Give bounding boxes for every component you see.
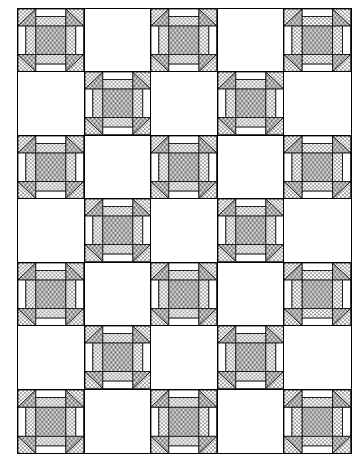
shoofly-block-icon bbox=[284, 263, 351, 325]
plain-square bbox=[218, 136, 285, 199]
plain-square bbox=[284, 326, 351, 389]
shoofly-block-icon bbox=[85, 72, 151, 134]
quilt-block bbox=[18, 9, 85, 72]
quilt-block bbox=[151, 263, 218, 326]
quilt-block bbox=[218, 72, 285, 135]
plain-square bbox=[85, 136, 152, 199]
plain-square bbox=[85, 9, 152, 72]
shoofly-block-icon bbox=[151, 390, 217, 453]
quilt-block bbox=[85, 199, 152, 262]
plain-square bbox=[18, 199, 85, 262]
shoofly-block-icon bbox=[218, 72, 284, 134]
quilt-layout bbox=[17, 8, 352, 454]
quilt-block bbox=[284, 263, 351, 326]
plain-square bbox=[18, 326, 85, 389]
shoofly-block-icon bbox=[151, 263, 217, 325]
quilt-block bbox=[284, 136, 351, 199]
shoofly-block-icon bbox=[18, 136, 84, 198]
quilt-block bbox=[284, 9, 351, 72]
quilt-block bbox=[151, 9, 218, 72]
shoofly-block-icon bbox=[284, 390, 351, 453]
quilt-block bbox=[18, 263, 85, 326]
plain-square bbox=[85, 263, 152, 326]
shoofly-block-icon bbox=[151, 9, 217, 71]
plain-square bbox=[85, 390, 152, 453]
shoofly-block-icon bbox=[18, 263, 84, 325]
plain-square bbox=[218, 263, 285, 326]
plain-square bbox=[151, 199, 218, 262]
shoofly-block-icon bbox=[284, 136, 351, 198]
quilt-block bbox=[218, 326, 285, 389]
quilt-block bbox=[284, 390, 351, 453]
shoofly-block-icon bbox=[284, 9, 351, 71]
quilt-block bbox=[85, 72, 152, 135]
quilt-block bbox=[218, 199, 285, 262]
quilt-block bbox=[18, 390, 85, 453]
shoofly-block-icon bbox=[85, 326, 151, 388]
shoofly-block-icon bbox=[18, 9, 84, 71]
quilt-block bbox=[151, 390, 218, 453]
shoofly-block-icon bbox=[151, 136, 217, 198]
shoofly-block-icon bbox=[218, 199, 284, 261]
quilt-block bbox=[18, 136, 85, 199]
shoofly-block-icon bbox=[85, 199, 151, 261]
plain-square bbox=[218, 390, 285, 453]
plain-square bbox=[284, 199, 351, 262]
quilt-block bbox=[85, 326, 152, 389]
quilt-block bbox=[151, 136, 218, 199]
plain-square bbox=[151, 326, 218, 389]
shoofly-block-icon bbox=[218, 326, 284, 388]
plain-square bbox=[18, 72, 85, 135]
shoofly-block-icon bbox=[18, 390, 84, 453]
plain-square bbox=[151, 72, 218, 135]
plain-square bbox=[218, 9, 285, 72]
plain-square bbox=[284, 72, 351, 135]
